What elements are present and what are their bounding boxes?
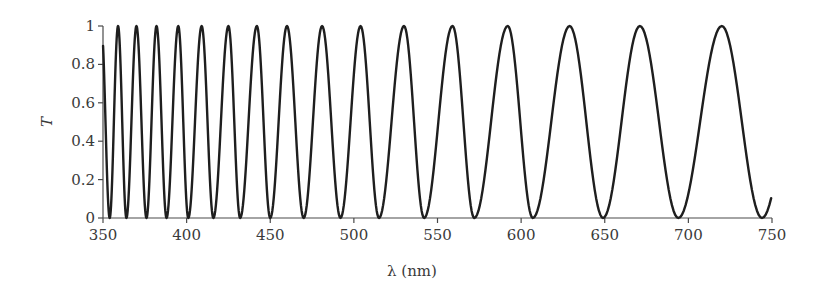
x-tick-label: 650 — [590, 226, 619, 244]
x-tick-label: 450 — [256, 226, 285, 244]
y-axis-title: T — [38, 116, 56, 127]
y-tick-label: 0 — [85, 209, 95, 227]
x-axis-ticks: 350400450500550600650700750 — [89, 218, 787, 244]
y-tick-label: 1 — [85, 17, 95, 35]
x-tick-label: 750 — [758, 226, 787, 244]
y-tick-label: 0.4 — [71, 132, 95, 150]
y-tick-label: 0.8 — [71, 55, 95, 73]
y-tick-label: 0.6 — [71, 94, 95, 112]
x-axis-title: λ (nm) — [387, 262, 437, 280]
chart: 350400450500550600650700750 00.20.40.60.… — [0, 0, 823, 301]
y-tick-label: 0.2 — [71, 171, 95, 189]
x-tick-label: 600 — [507, 226, 536, 244]
x-tick-label: 550 — [423, 226, 452, 244]
x-tick-label: 350 — [89, 226, 118, 244]
y-axis-ticks: 00.20.40.60.81 — [71, 17, 103, 227]
x-tick-label: 400 — [172, 226, 201, 244]
transmittance-curve — [103, 26, 771, 218]
x-tick-label: 500 — [340, 226, 369, 244]
x-tick-label: 700 — [674, 226, 703, 244]
